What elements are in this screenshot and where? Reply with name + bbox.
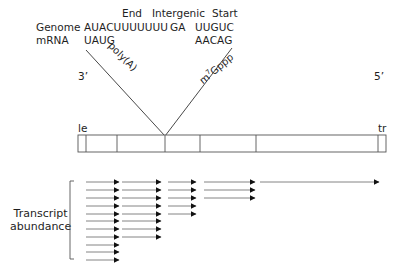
transcript-arrows [86,182,379,260]
diagram-canvas [0,0,393,271]
junction-lines [86,48,232,136]
genome-bar [78,135,386,152]
abundance-bracket [70,181,74,259]
